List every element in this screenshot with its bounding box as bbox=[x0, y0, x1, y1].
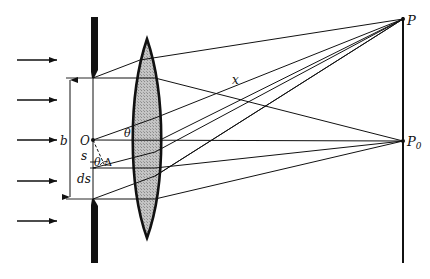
label-ds: ds bbox=[77, 172, 91, 186]
slit-barrier-lower bbox=[91, 199, 98, 263]
label-P0: P0 bbox=[406, 134, 422, 151]
label-s: s bbox=[81, 149, 87, 163]
point-P bbox=[401, 17, 405, 21]
slit-barrier-upper bbox=[91, 17, 98, 78]
label-O: O bbox=[80, 134, 90, 148]
diffraction-diagram: P P0 O b s ds θ θ Δ x bbox=[0, 0, 430, 279]
point-O bbox=[91, 138, 95, 142]
converging-lens bbox=[133, 39, 162, 238]
label-theta-lower: θ bbox=[94, 156, 101, 169]
label-theta-upper: θ bbox=[124, 127, 131, 140]
label-delta: Δ bbox=[104, 156, 112, 169]
ray bbox=[160, 19, 403, 140]
label-P: P bbox=[406, 13, 416, 28]
incident-arrows bbox=[17, 60, 57, 221]
point-P0 bbox=[401, 139, 405, 143]
label-x: x bbox=[232, 73, 239, 87]
label-b: b bbox=[60, 134, 68, 148]
ray bbox=[155, 19, 403, 176]
